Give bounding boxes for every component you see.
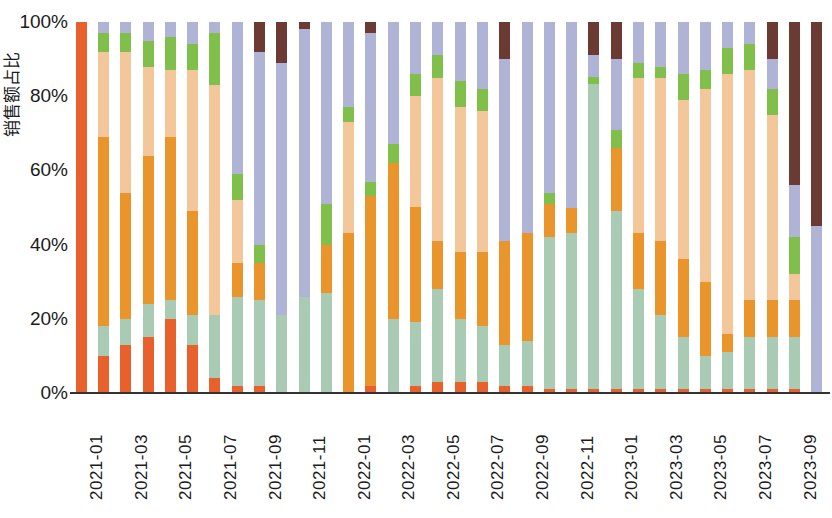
bar-segment — [611, 148, 622, 211]
bar-segment — [143, 22, 154, 41]
bar-segment — [477, 111, 488, 252]
bar[interactable] — [209, 22, 220, 393]
bar-segment — [611, 59, 622, 129]
x-tick-label: 2022-05 — [444, 434, 464, 500]
bar[interactable] — [744, 22, 755, 393]
bar-segment — [187, 345, 198, 393]
bar-segment — [276, 315, 287, 393]
bar[interactable] — [143, 22, 154, 393]
bar-segment — [410, 22, 421, 74]
bar-segment — [209, 33, 220, 85]
bar-segment — [744, 337, 755, 389]
bar-segment — [254, 22, 265, 52]
bar-segment — [499, 59, 510, 241]
bar-segment — [477, 22, 488, 89]
bar-segment — [678, 337, 689, 389]
bar[interactable] — [544, 22, 555, 393]
bar[interactable] — [388, 22, 399, 393]
bar-segment — [455, 252, 466, 319]
bar[interactable] — [187, 22, 198, 393]
bar-segment — [432, 78, 443, 241]
bar-segment — [187, 70, 198, 211]
bar[interactable] — [455, 22, 466, 393]
bar-segment — [544, 237, 555, 389]
bar-segment — [477, 252, 488, 326]
bar[interactable] — [343, 22, 354, 393]
bar[interactable] — [365, 22, 376, 393]
bar[interactable] — [722, 22, 733, 393]
bar-segment — [499, 22, 510, 59]
bar-segment — [611, 211, 622, 389]
bar-segment — [299, 22, 310, 29]
bar-segment — [254, 245, 265, 264]
bar-segment — [98, 33, 109, 52]
y-axis-tick-labels: 0%20%40%60%80%100% — [6, 0, 68, 518]
bar[interactable] — [811, 22, 822, 393]
bar-segment — [187, 22, 198, 44]
bar[interactable] — [499, 22, 510, 393]
bar[interactable] — [232, 22, 243, 393]
bar-segment — [209, 378, 220, 393]
bar[interactable] — [789, 22, 800, 393]
bar-segment — [143, 67, 154, 156]
bar-segment — [388, 319, 399, 393]
bar-segment — [165, 137, 176, 300]
bar-segment — [365, 196, 376, 385]
bar-segment — [767, 300, 778, 337]
bar-segment — [744, 22, 755, 44]
bar[interactable] — [432, 22, 443, 393]
bar-segment — [432, 241, 443, 289]
bar-segment — [455, 22, 466, 81]
y-tick-label: 100% — [10, 11, 68, 33]
bar[interactable] — [477, 22, 488, 393]
bar-segment — [432, 55, 443, 77]
bar-segment — [209, 85, 220, 315]
bar[interactable] — [321, 22, 332, 393]
bar[interactable] — [566, 22, 577, 393]
bar-segment — [767, 115, 778, 301]
bar[interactable] — [299, 22, 310, 393]
bar[interactable] — [410, 22, 421, 393]
bar-segment — [767, 59, 778, 89]
bar-segment — [633, 63, 644, 78]
bar-segment — [98, 326, 109, 356]
bar-segment — [633, 78, 644, 234]
bar[interactable] — [611, 22, 622, 393]
x-tick-label: 2021-05 — [176, 434, 196, 500]
bar-segment — [98, 356, 109, 393]
bar-segment — [343, 22, 354, 107]
x-tick-label: 2023-01 — [622, 434, 642, 500]
bar-segment — [655, 315, 666, 389]
bar-segment — [678, 74, 689, 100]
bar-segment — [588, 22, 599, 55]
bar-segment — [232, 263, 243, 296]
bar[interactable] — [254, 22, 265, 393]
bar[interactable] — [655, 22, 666, 393]
bar-segment — [744, 70, 755, 300]
bar-segment — [143, 156, 154, 304]
bar-segment — [655, 67, 666, 78]
bar-segment — [744, 44, 755, 70]
bar[interactable] — [76, 22, 87, 393]
bar[interactable] — [165, 22, 176, 393]
y-tick-label: 20% — [10, 308, 68, 330]
bar[interactable] — [276, 22, 287, 393]
bar-segment — [700, 89, 711, 282]
x-tick-label: 2021-01 — [87, 434, 107, 500]
bar[interactable] — [120, 22, 131, 393]
x-tick-label: 2021-11 — [310, 435, 330, 500]
bar-segment — [187, 211, 198, 315]
bar[interactable] — [700, 22, 711, 393]
bar[interactable] — [522, 22, 533, 393]
bar-segment — [365, 33, 376, 181]
bar-segment — [120, 33, 131, 52]
bar-segment — [611, 130, 622, 149]
bar-segment — [655, 78, 666, 241]
bar[interactable] — [678, 22, 689, 393]
bar[interactable] — [767, 22, 778, 393]
bar-segment — [633, 289, 644, 389]
bar-segment — [789, 237, 800, 274]
bar[interactable] — [633, 22, 644, 393]
bar[interactable] — [98, 22, 109, 393]
bar[interactable] — [588, 22, 599, 393]
